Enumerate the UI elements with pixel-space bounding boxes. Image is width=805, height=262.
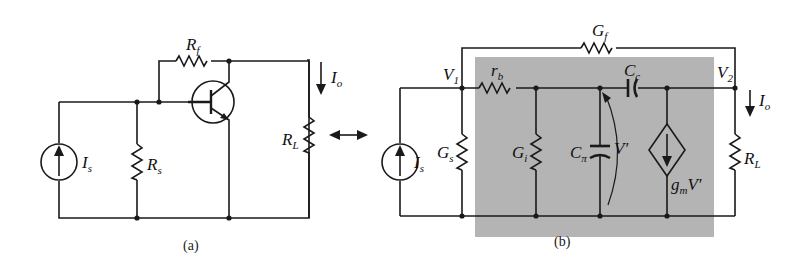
node-dot [597, 85, 602, 90]
label-rl-b: RL [743, 149, 761, 170]
node-dot [533, 213, 538, 218]
node-dot [459, 213, 464, 218]
label-is-a: Is [81, 153, 92, 174]
resistor-rf [176, 56, 207, 66]
node-dot [664, 213, 669, 218]
transistor-base [188, 90, 211, 114]
node-dot [156, 99, 161, 104]
transistor-leads [211, 61, 229, 218]
node-dot [533, 85, 538, 90]
label-v2: V2 [717, 63, 733, 84]
label-gf: Gf [592, 21, 609, 42]
label-rf: Rf [185, 35, 201, 56]
node-dot [134, 215, 139, 220]
node-dot [597, 213, 602, 218]
io-arrow-icon-a [316, 84, 326, 95]
node-dot [459, 85, 464, 90]
node-dot [134, 99, 139, 104]
caption-a: (a) [183, 238, 199, 254]
resistor-gs [457, 134, 467, 170]
label-gs: Gs [437, 143, 454, 164]
node-dot [732, 85, 737, 90]
is-arrow-icon-b [395, 145, 405, 156]
wire-a-outer [59, 60, 309, 218]
label-vprime: V′ [614, 139, 628, 158]
caption-b: (b) [554, 234, 571, 250]
resistor-rl-b [730, 134, 740, 170]
resistor-rs [132, 144, 142, 180]
io-arrow-icon-b [745, 106, 755, 117]
label-rl-a: RL [281, 130, 299, 151]
is-arrow-icon-a [54, 145, 64, 156]
label-rs: Rs [146, 155, 162, 176]
panel-a: Rf Io RL Is Rs (a) [41, 35, 343, 254]
label-is-b: Is [413, 153, 424, 174]
node-dot [226, 58, 231, 63]
label-v1: V1 [443, 65, 459, 86]
panel-b: Gf V1 V2 rb Cc Io Is Gs Gi Cπ V′ gmV′ RL… [382, 21, 771, 250]
label-io-a: Io [330, 68, 343, 89]
wire-rf [159, 61, 309, 102]
equivalence-arrow-icon [329, 130, 368, 140]
resistor-gf [581, 43, 612, 53]
node-dot [226, 215, 231, 220]
circuit-figure: Rf Io RL Is Rs (a) [0, 0, 805, 262]
node-dot [664, 85, 669, 90]
label-io-b: Io [758, 91, 771, 112]
